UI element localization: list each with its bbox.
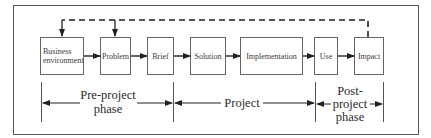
stage-label-line1: Business [43, 47, 71, 56]
phase-label-line1: Post- [337, 84, 363, 98]
stage-label: Impact [358, 52, 381, 61]
stage-implementation: Implementation [241, 38, 303, 75]
stage-impact: Impact [355, 38, 384, 75]
stage-brief: Brief [148, 38, 174, 75]
phase-label-line3: phase [336, 110, 365, 124]
phase-label: Project [224, 96, 260, 110]
phase-label-line2: project [333, 97, 368, 111]
phase-post-project: Post- project phase [317, 84, 382, 124]
project-lifecycle-diagram: Business environment Problem Brief Solut… [0, 0, 431, 138]
stage-label: Solution [194, 52, 221, 61]
stage-label: Brief [152, 52, 169, 61]
stage-label: Implementation [246, 52, 297, 61]
stage-label: Use [320, 52, 333, 61]
phase-project: Project [175, 96, 314, 110]
phase-label-line2: phase [94, 102, 123, 116]
stage-solution: Solution [191, 38, 226, 75]
stage-problem: Problem [101, 38, 131, 75]
phase-pre-project: Pre-project phase [43, 88, 172, 116]
stage-label-line2: environment [43, 56, 84, 65]
feedback-loop [62, 20, 368, 37]
phase-label-line1: Pre-project [80, 88, 136, 102]
stage-label: Problem [102, 52, 130, 61]
stage-business-environment: Business environment [41, 38, 85, 75]
stage-use: Use [315, 38, 338, 75]
